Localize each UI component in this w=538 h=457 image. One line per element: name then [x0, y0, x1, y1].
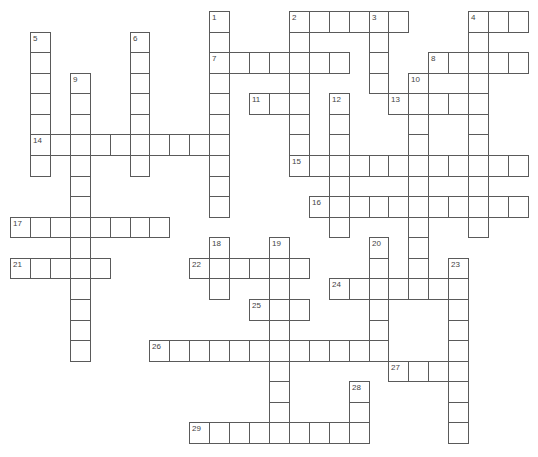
crossword-cell[interactable]	[329, 176, 350, 197]
crossword-cell[interactable]	[30, 258, 51, 279]
crossword-cell[interactable]	[130, 217, 150, 238]
crossword-cell[interactable]	[209, 340, 230, 362]
crossword-cell[interactable]	[229, 52, 250, 74]
crossword-cell[interactable]	[468, 134, 489, 156]
crossword-cell[interactable]	[349, 196, 370, 218]
crossword-cell[interactable]	[369, 73, 389, 94]
crossword-cell[interactable]	[249, 340, 270, 362]
crossword-cell[interactable]: 19	[269, 237, 290, 259]
crossword-cell[interactable]	[508, 11, 529, 33]
crossword-cell[interactable]: 1	[209, 11, 230, 33]
crossword-cell[interactable]	[269, 258, 290, 279]
crossword-cell[interactable]	[70, 176, 91, 197]
crossword-cell[interactable]	[448, 299, 469, 321]
crossword-cell[interactable]: 13	[388, 93, 409, 115]
crossword-cell[interactable]	[289, 114, 310, 135]
crossword-cell[interactable]	[448, 52, 469, 74]
crossword-cell[interactable]	[70, 278, 91, 300]
crossword-cell[interactable]	[428, 155, 449, 177]
crossword-cell[interactable]	[408, 134, 429, 156]
crossword-cell[interactable]: 6	[130, 32, 150, 53]
crossword-cell[interactable]	[110, 134, 131, 156]
crossword-cell[interactable]	[448, 155, 469, 177]
crossword-cell[interactable]	[269, 52, 290, 74]
crossword-cell[interactable]	[130, 155, 150, 177]
crossword-cell[interactable]	[309, 11, 330, 33]
crossword-cell[interactable]	[468, 217, 489, 238]
crossword-cell[interactable]	[209, 32, 230, 53]
crossword-cell[interactable]	[388, 278, 409, 300]
crossword-cell[interactable]	[329, 422, 350, 444]
crossword-cell[interactable]	[369, 258, 389, 279]
crossword-cell[interactable]: 5	[30, 32, 51, 53]
crossword-cell[interactable]	[468, 73, 489, 94]
crossword-cell[interactable]	[90, 217, 111, 238]
crossword-cell[interactable]	[30, 217, 51, 238]
crossword-cell[interactable]	[269, 299, 290, 321]
crossword-cell[interactable]	[369, 278, 389, 300]
crossword-cell[interactable]	[369, 196, 389, 218]
crossword-cell[interactable]	[269, 340, 290, 362]
crossword-cell[interactable]	[30, 73, 51, 94]
crossword-cell[interactable]	[110, 217, 131, 238]
crossword-cell[interactable]: 3	[369, 11, 389, 33]
crossword-cell[interactable]: 25	[249, 299, 270, 321]
crossword-cell[interactable]	[408, 217, 429, 238]
crossword-cell[interactable]	[50, 217, 71, 238]
crossword-cell[interactable]	[70, 155, 91, 177]
crossword-cell[interactable]: 11	[249, 93, 270, 115]
crossword-cell[interactable]	[468, 155, 489, 177]
crossword-cell[interactable]	[70, 114, 91, 135]
crossword-cell[interactable]	[468, 176, 489, 197]
crossword-cell[interactable]	[448, 196, 469, 218]
crossword-cell[interactable]: 24	[329, 278, 350, 300]
crossword-cell[interactable]	[329, 196, 350, 218]
crossword-cell[interactable]	[408, 196, 429, 218]
crossword-cell[interactable]: 27	[388, 361, 409, 382]
crossword-cell[interactable]	[468, 93, 489, 115]
crossword-cell[interactable]	[209, 134, 230, 156]
crossword-cell[interactable]: 18	[209, 237, 230, 259]
crossword-cell[interactable]	[369, 340, 389, 362]
crossword-cell[interactable]	[209, 258, 230, 279]
crossword-cell[interactable]	[249, 422, 270, 444]
crossword-cell[interactable]	[488, 155, 509, 177]
crossword-cell[interactable]	[309, 155, 330, 177]
crossword-cell[interactable]	[130, 52, 150, 74]
crossword-cell[interactable]	[269, 320, 290, 341]
crossword-cell[interactable]	[388, 196, 409, 218]
crossword-cell[interactable]	[448, 422, 469, 444]
crossword-cell[interactable]	[130, 134, 150, 156]
crossword-cell[interactable]: 4	[468, 11, 489, 33]
crossword-cell[interactable]	[30, 155, 51, 177]
crossword-cell[interactable]	[408, 93, 429, 115]
crossword-cell[interactable]	[209, 73, 230, 94]
crossword-cell[interactable]	[269, 381, 290, 403]
crossword-cell[interactable]	[130, 73, 150, 94]
crossword-cell[interactable]	[468, 52, 489, 74]
crossword-cell[interactable]	[329, 11, 350, 33]
crossword-cell[interactable]	[329, 52, 350, 74]
crossword-cell[interactable]	[448, 381, 469, 403]
crossword-cell[interactable]	[349, 422, 370, 444]
crossword-cell[interactable]	[209, 114, 230, 135]
crossword-cell[interactable]	[508, 155, 529, 177]
crossword-cell[interactable]	[468, 114, 489, 135]
crossword-cell[interactable]	[289, 52, 310, 74]
crossword-cell[interactable]	[149, 134, 170, 156]
crossword-cell[interactable]: 28	[349, 381, 370, 403]
crossword-cell[interactable]	[388, 155, 409, 177]
crossword-cell[interactable]	[130, 93, 150, 115]
crossword-cell[interactable]	[229, 258, 250, 279]
crossword-cell[interactable]	[289, 422, 310, 444]
crossword-cell[interactable]	[169, 340, 190, 362]
crossword-cell[interactable]	[468, 32, 489, 53]
crossword-cell[interactable]	[428, 361, 449, 382]
crossword-cell[interactable]	[70, 237, 91, 259]
crossword-cell[interactable]: 16	[309, 196, 330, 218]
crossword-cell[interactable]: 14	[30, 134, 51, 156]
crossword-cell[interactable]	[349, 278, 370, 300]
crossword-cell[interactable]	[349, 402, 370, 423]
crossword-cell[interactable]	[70, 196, 91, 218]
crossword-cell[interactable]	[30, 114, 51, 135]
